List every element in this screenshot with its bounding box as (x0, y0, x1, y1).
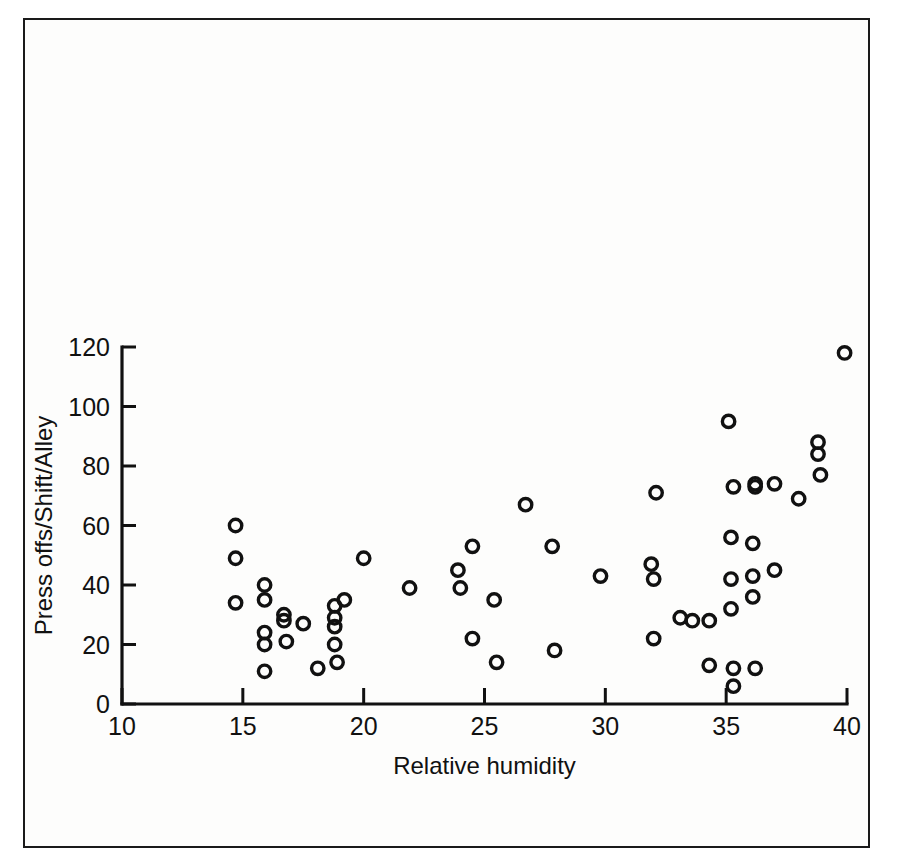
data-point (747, 570, 759, 582)
data-point (331, 656, 343, 668)
data-point (594, 570, 606, 582)
data-point (229, 597, 241, 609)
y-tick-label-40: 40 (82, 571, 110, 599)
x-axis-title: Relative humidity (393, 752, 576, 779)
data-point (297, 617, 309, 629)
data-point (686, 615, 698, 627)
data-point (519, 498, 531, 510)
data-point (703, 615, 715, 627)
y-tick-label-60: 60 (82, 512, 110, 540)
y-axis-title: Press offs/Shift/Alley (30, 416, 57, 636)
data-point (814, 469, 826, 481)
data-point (747, 591, 759, 603)
data-point (338, 594, 350, 606)
data-point (488, 594, 500, 606)
data-point (328, 638, 340, 650)
data-point (454, 582, 466, 594)
data-point (727, 481, 739, 493)
y-tick-label-80: 80 (82, 452, 110, 480)
data-point (546, 540, 558, 552)
data-point (727, 662, 739, 674)
data-point (258, 665, 270, 677)
data-point (229, 552, 241, 564)
data-point (258, 594, 270, 606)
y-tick-label-20: 20 (82, 631, 110, 659)
data-point (466, 540, 478, 552)
data-point (722, 415, 734, 427)
x-axis-ticks: 10152025303540 (108, 688, 861, 740)
x-tick-label-20: 20 (350, 712, 378, 740)
data-point (548, 644, 560, 656)
data-point (357, 552, 369, 564)
data-point (645, 558, 657, 570)
data-point (703, 659, 715, 671)
data-point (768, 564, 780, 576)
x-tick-label-30: 30 (591, 712, 619, 740)
y-axis-ticks: 020406080100120 (68, 333, 136, 718)
data-point (258, 579, 270, 591)
data-point (792, 493, 804, 505)
data-point (403, 582, 415, 594)
data-point (452, 564, 464, 576)
y-tick-label-100: 100 (68, 393, 110, 421)
data-point (647, 632, 659, 644)
data-point (490, 656, 502, 668)
data-point (768, 478, 780, 490)
data-point (280, 635, 292, 647)
data-point (650, 487, 662, 499)
x-tick-label-40: 40 (833, 712, 861, 740)
data-point (727, 680, 739, 692)
data-point (725, 573, 737, 585)
x-tick-label-25: 25 (471, 712, 499, 740)
data-point (312, 662, 324, 674)
y-tick-label-120: 120 (68, 333, 110, 361)
data-point (747, 537, 759, 549)
data-point (838, 347, 850, 359)
x-tick-label-15: 15 (229, 712, 257, 740)
x-tick-label-10: 10 (108, 712, 136, 740)
data-point (229, 519, 241, 531)
data-point (647, 573, 659, 585)
data-point (749, 662, 761, 674)
data-point (466, 632, 478, 644)
data-point-markers (229, 347, 850, 693)
data-point (725, 531, 737, 543)
x-tick-label-35: 35 (712, 712, 740, 740)
data-point (725, 603, 737, 615)
